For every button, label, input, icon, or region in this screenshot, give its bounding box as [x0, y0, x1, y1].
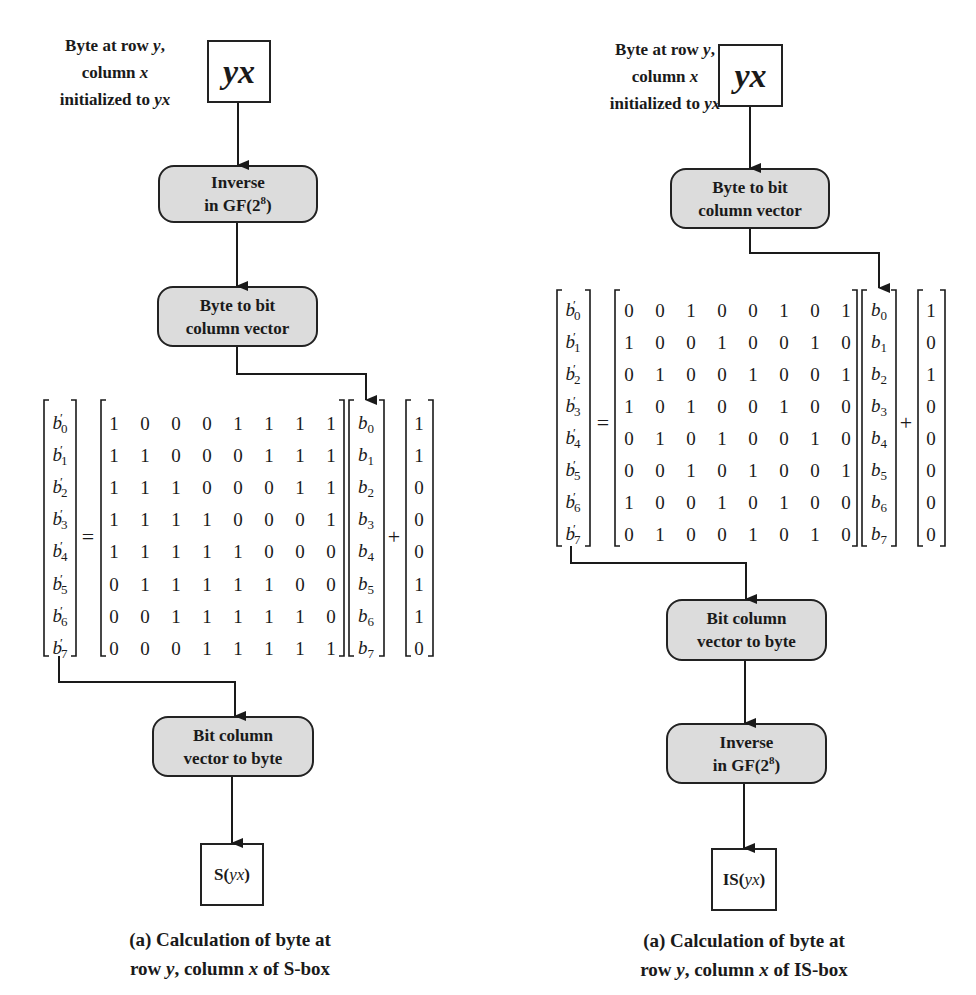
- connector-arrows: [0, 0, 976, 995]
- arrow-left-matrix-to-bitbyte: [59, 656, 235, 716]
- arrow-left-bytebit-to-matrix: [237, 347, 366, 400]
- arrow-right-bytebit-to-matrix: [750, 229, 879, 288]
- arrow-right-matrix-to-bitbyte: [571, 546, 746, 599]
